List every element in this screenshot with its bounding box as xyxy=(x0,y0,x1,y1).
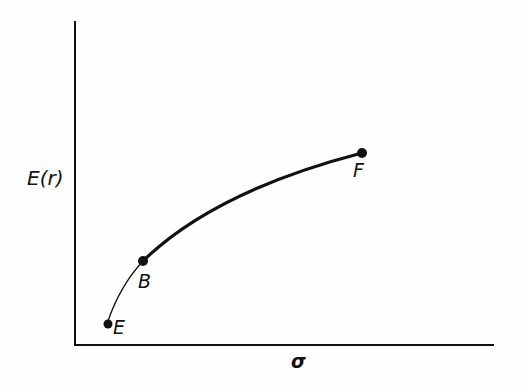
point-f-label: F xyxy=(353,161,364,180)
point-e-label: E xyxy=(113,318,125,337)
point-e-marker xyxy=(104,320,113,329)
diagram-canvas xyxy=(0,0,523,392)
diagram-figure: E(r) σ B E F xyxy=(0,0,523,392)
point-b-marker xyxy=(138,256,148,266)
point-f-marker xyxy=(357,148,367,158)
curve-segment-b-f xyxy=(143,153,362,261)
y-axis-label: E(r) xyxy=(27,168,63,188)
x-axis-label: σ xyxy=(291,352,306,371)
point-b-label: B xyxy=(138,272,151,291)
